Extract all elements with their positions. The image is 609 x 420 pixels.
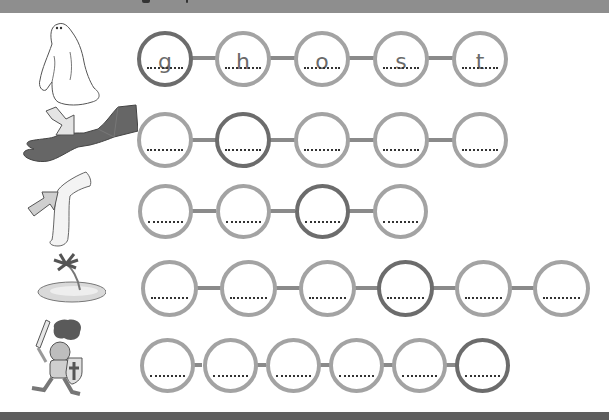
sound-box[interactable] [373, 112, 429, 168]
writing-line [383, 221, 418, 223]
sound-box[interactable]: t [452, 31, 508, 87]
ghost-icon [30, 22, 110, 110]
connector [275, 286, 301, 290]
writing-line [383, 149, 419, 151]
sound-box[interactable]: o [294, 31, 350, 87]
writing-line [226, 221, 261, 223]
sound-box[interactable] [266, 338, 321, 393]
writing-line [305, 221, 340, 223]
connector [431, 286, 457, 290]
sound-box[interactable] [455, 338, 510, 393]
writing-line [148, 221, 183, 223]
writing-line [304, 149, 340, 151]
knee-icon [24, 168, 104, 250]
writing-line [387, 297, 424, 299]
writing-line [230, 297, 267, 299]
top-banner [0, 0, 609, 13]
writing-line [465, 375, 500, 377]
cropped-header-text [186, 0, 188, 3]
sound-box[interactable] [140, 338, 195, 393]
writing-line [147, 67, 183, 69]
sound-box[interactable] [455, 260, 512, 317]
sound-box[interactable] [216, 184, 271, 239]
connector [269, 56, 295, 60]
writing-line [304, 67, 340, 69]
connector [428, 56, 454, 60]
writing-line [462, 149, 498, 151]
writing-line [150, 375, 185, 377]
writing-line [213, 375, 248, 377]
connector [269, 138, 295, 142]
writing-line [543, 297, 580, 299]
sound-box[interactable] [203, 338, 258, 393]
connector [196, 286, 222, 290]
bottom-banner [0, 412, 609, 420]
sound-box[interactable] [533, 260, 590, 317]
connector [349, 209, 375, 213]
writing-line [151, 297, 188, 299]
sound-box[interactable] [215, 112, 271, 168]
connector [349, 56, 375, 60]
sound-box[interactable] [299, 260, 356, 317]
sound-letter: h [219, 51, 267, 73]
sound-box[interactable] [329, 338, 384, 393]
connector [428, 138, 454, 142]
sound-letter: t [456, 51, 504, 73]
writing-line [339, 375, 374, 377]
sound-box[interactable] [294, 112, 350, 168]
sound-box[interactable] [377, 260, 434, 317]
writing-line [309, 297, 346, 299]
knight-icon [24, 318, 94, 406]
writing-line [225, 149, 261, 151]
writing-line [276, 375, 311, 377]
cropped-header-text [142, 0, 150, 3]
writing-line [465, 297, 502, 299]
sound-box[interactable] [295, 184, 350, 239]
sound-box[interactable] [137, 112, 193, 168]
sound-box[interactable] [452, 112, 508, 168]
writing-line [147, 149, 183, 151]
connector [190, 56, 216, 60]
writing-line [383, 67, 419, 69]
sound-box[interactable]: h [215, 31, 271, 87]
sound-letter: g [141, 51, 189, 73]
sound-box[interactable] [373, 184, 428, 239]
sound-box[interactable] [138, 184, 193, 239]
connector [190, 209, 216, 213]
sound-letter: s [377, 51, 425, 73]
writing-line [225, 67, 261, 69]
connector [190, 138, 216, 142]
sound-letter: o [298, 51, 346, 73]
connector [353, 286, 379, 290]
sound-box[interactable] [220, 260, 277, 317]
connector [349, 138, 375, 142]
writing-line [402, 375, 437, 377]
connector [269, 209, 295, 213]
connector [509, 286, 535, 290]
sound-box[interactable] [392, 338, 447, 393]
sound-box[interactable] [141, 260, 198, 317]
sound-box[interactable]: g [137, 31, 193, 87]
island-icon [36, 250, 106, 306]
wrist-icon [18, 103, 138, 167]
sound-box[interactable]: s [373, 31, 429, 87]
writing-line [462, 67, 498, 69]
